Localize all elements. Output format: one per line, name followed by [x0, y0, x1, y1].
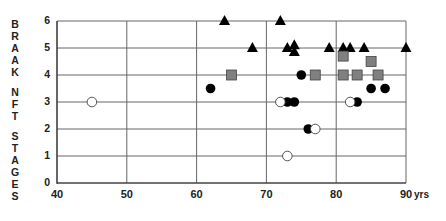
square-marker: [373, 70, 383, 80]
y-tick-label: 2: [38, 122, 50, 134]
plot-area: [0, 0, 446, 221]
open-circle-marker: [276, 97, 286, 107]
filled-circle-marker: [380, 84, 390, 94]
x-tick-label: 90: [400, 188, 412, 200]
square-marker: [310, 70, 320, 80]
triangle-marker: [345, 42, 356, 52]
square-marker: [227, 70, 237, 80]
filled-circle-marker: [366, 84, 376, 94]
y-tick-label: 1: [38, 149, 50, 161]
x-tick-label: 40: [51, 188, 63, 200]
x-tick-label: 70: [260, 188, 272, 200]
square-marker: [338, 51, 348, 61]
y-tick-label: 5: [38, 41, 50, 53]
square-marker: [338, 70, 348, 80]
filled-circle-marker: [206, 84, 216, 94]
y-tick-label: 0: [38, 176, 50, 188]
filled-circle-marker: [290, 97, 300, 107]
triangle-marker: [324, 42, 335, 52]
triangle-marker: [219, 15, 230, 25]
x-tick-label: 80: [330, 188, 342, 200]
triangle-marker: [275, 15, 286, 25]
square-marker: [352, 70, 362, 80]
y-tick-label: 3: [38, 95, 50, 107]
open-circle-marker: [283, 151, 293, 161]
triangle-marker: [401, 42, 412, 52]
x-tick-label: 50: [121, 188, 133, 200]
x-tick-label: 60: [190, 188, 202, 200]
open-circle-marker: [87, 97, 97, 107]
x-axis-unit: yrs: [414, 189, 429, 200]
square-marker: [366, 57, 376, 67]
y-tick-label: 6: [38, 14, 50, 26]
open-circle-marker: [310, 124, 320, 134]
y-tick-label: 4: [38, 68, 50, 80]
open-circle-marker: [345, 97, 355, 107]
triangle-marker: [247, 42, 258, 52]
filled-circle-marker: [297, 70, 307, 80]
triangle-marker: [359, 42, 370, 52]
